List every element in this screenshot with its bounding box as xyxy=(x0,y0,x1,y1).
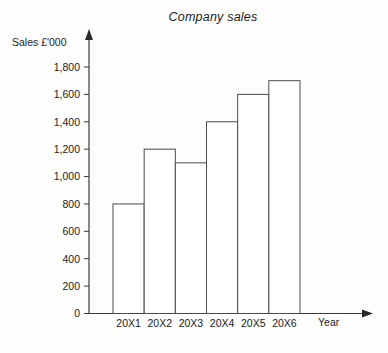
y-tick-label: 1,200 xyxy=(54,143,80,155)
x-tick-label-20X1: 20X1 xyxy=(116,317,141,329)
y-tick-label: 1,800 xyxy=(54,61,80,73)
y-axis-ticks: 1,8001,6001,4001,2001,0008006004002000 xyxy=(54,61,89,320)
bar-20X6 xyxy=(269,81,300,314)
y-tick-label: 400 xyxy=(62,253,80,265)
y-tick-label: 1,000 xyxy=(54,170,80,182)
x-tick-label-20X2: 20X2 xyxy=(147,317,172,329)
y-tick-label: 1,400 xyxy=(54,116,80,128)
y-tick-label: 1,600 xyxy=(54,88,80,100)
x-tick-label-20X4: 20X4 xyxy=(210,317,235,329)
bar-20X2 xyxy=(144,149,175,313)
x-axis-arrow-icon xyxy=(362,310,373,318)
y-tick-label: 800 xyxy=(62,198,80,210)
plot-area: 1,8001,6001,4001,2001,0008006004002000 2… xyxy=(0,0,388,353)
y-tick-label: 600 xyxy=(62,225,80,237)
bars-group xyxy=(113,81,300,314)
chart-container: Company sales Sales £'000 Year 1,8001,60… xyxy=(0,0,388,353)
x-axis-ticks: 20X120X220X320X420X520X6 xyxy=(116,317,297,329)
x-tick-label-20X5: 20X5 xyxy=(241,317,266,329)
x-tick-label-20X3: 20X3 xyxy=(179,317,204,329)
y-axis-arrow-icon xyxy=(85,29,93,40)
bar-20X3 xyxy=(175,163,206,314)
y-tick-label: 0 xyxy=(74,307,80,319)
y-tick-label: 200 xyxy=(62,280,80,292)
bar-20X1 xyxy=(113,204,144,314)
bar-20X4 xyxy=(207,122,238,314)
bar-20X5 xyxy=(238,94,269,313)
x-tick-label-20X6: 20X6 xyxy=(272,317,297,329)
